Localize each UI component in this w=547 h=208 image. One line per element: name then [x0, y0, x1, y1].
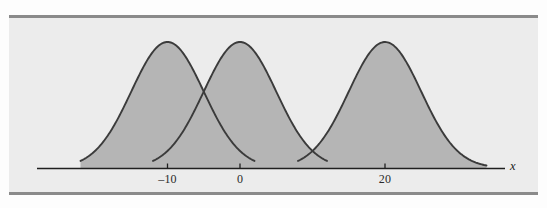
- tick-label-minus-10: –10: [148, 172, 188, 187]
- figure-container: –10 0 20 x: [0, 0, 547, 208]
- normal-curves-plot: [0, 0, 547, 208]
- axis-label-x: x: [510, 159, 516, 174]
- curves-group: [81, 42, 487, 168]
- tick-label-0: 0: [220, 172, 260, 187]
- curve-fill-3: [298, 42, 487, 168]
- tick-label-20: 20: [365, 172, 405, 187]
